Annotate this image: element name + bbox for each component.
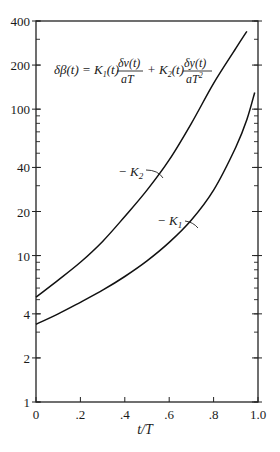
svg-text:− K1: − K1 (157, 213, 182, 230)
x-tick-label: .4 (120, 407, 130, 422)
y-tick-label: 20 (17, 205, 30, 220)
x-tick-label: .8 (209, 407, 219, 422)
x-tick-label: .6 (164, 407, 174, 422)
svg-text:δβ(t) = K1(t): δβ(t) = K1(t) (54, 62, 119, 79)
x-tick-label: 0 (33, 407, 40, 422)
y-tick-label: 2 (24, 351, 31, 366)
svg-text:δy(t): δy(t) (184, 56, 206, 70)
svg-text:+ K2(t): + K2(t) (147, 62, 184, 79)
y-tick-label: 40 (17, 160, 30, 175)
y-tick-label: 4 (24, 307, 31, 322)
svg-text:− K2: − K2 (118, 164, 144, 181)
y-tick-label: 200 (11, 58, 31, 73)
x-axis-ticks: 0.2.4.6.81.0 (33, 397, 266, 422)
x-tick-label: 1.0 (250, 407, 266, 422)
plot-frame (36, 21, 258, 402)
svg-text:aT: aT (121, 72, 135, 86)
y-tick-label: 100 (11, 102, 31, 117)
equation-annotation: δβ(t) = K1(t) δv(t) aT + K2(t) δy(t) aT2 (54, 56, 212, 86)
y-axis-ticks: 124102040100200400 (11, 14, 263, 410)
y-tick-label: 400 (11, 14, 31, 29)
y-tick-label: 10 (17, 249, 30, 264)
y-tick-label: 1 (24, 395, 31, 410)
label-minus-k1: − K1 (157, 213, 198, 230)
svg-text:aT2: aT2 (186, 71, 203, 86)
x-tick-label: .2 (76, 407, 86, 422)
chart: 124102040100200400 0.2.4.6.81.0 δβ(t) = … (0, 0, 280, 452)
x-axis-label: t/T (137, 422, 154, 437)
svg-text:δv(t): δv(t) (118, 56, 140, 70)
curve-minus-k1 (36, 93, 255, 325)
